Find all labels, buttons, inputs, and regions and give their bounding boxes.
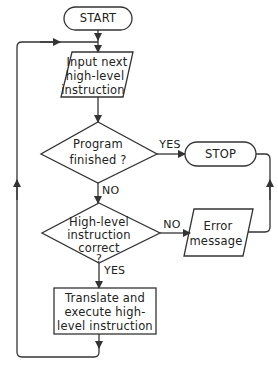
process-line-2: execute high- bbox=[54, 305, 156, 319]
decision1-line-2: finished ? bbox=[60, 153, 136, 167]
decision2-line-2: instruction bbox=[59, 228, 139, 242]
flowchart-canvas: START Input next high-level instruction … bbox=[0, 0, 278, 369]
input-line-1: Input next bbox=[62, 55, 132, 69]
process-line-3: level instruction bbox=[54, 319, 156, 333]
error-line-2: message bbox=[188, 234, 244, 248]
process-line-1: Translate and bbox=[54, 291, 156, 305]
decision2-yes-label: YES bbox=[104, 264, 134, 278]
decision1-yes-label: YES bbox=[155, 138, 185, 152]
start-label: START bbox=[64, 11, 132, 25]
decision2-line-1: High-level bbox=[59, 215, 139, 229]
error-line-1: Error bbox=[190, 219, 246, 233]
decision1-line-1: Program bbox=[60, 137, 136, 151]
stop-label: STOP bbox=[185, 147, 256, 161]
decision2-no-label: NO bbox=[160, 218, 184, 232]
input-line-3: instruction bbox=[58, 83, 128, 97]
input-line-2: high-level bbox=[60, 69, 130, 83]
decision1-no-label: NO bbox=[102, 184, 124, 198]
